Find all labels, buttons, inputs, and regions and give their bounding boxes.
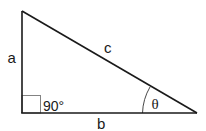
label-right-angle: 90° [43, 98, 64, 114]
label-c: c [104, 39, 112, 56]
right-angle-marker [22, 96, 41, 114]
label-a: a [8, 49, 17, 66]
label-b: b [97, 115, 105, 131]
angle-arc [143, 87, 151, 113]
label-theta: θ [152, 96, 159, 112]
right-triangle-diagram: a c b 90° θ [0, 0, 206, 131]
